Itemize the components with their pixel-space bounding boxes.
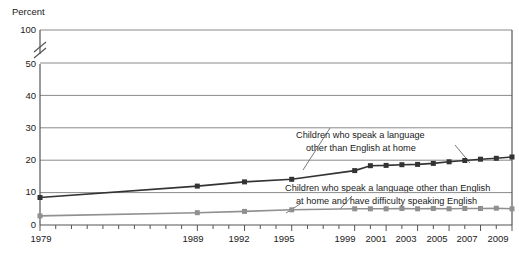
series-difficulty-english	[38, 206, 515, 219]
data-point-1999	[352, 206, 357, 211]
data-point-1979	[38, 213, 43, 218]
data-point-1989	[195, 210, 200, 215]
series-all-non-english	[38, 155, 515, 201]
data-point-2003	[415, 206, 420, 211]
data-point-2003	[415, 162, 420, 167]
data-point-1992	[242, 179, 247, 184]
series-line	[40, 208, 512, 216]
data-point-2006	[462, 158, 467, 163]
data-point-2000	[368, 206, 373, 211]
data-point-2002	[399, 206, 404, 211]
data-point-2008	[494, 206, 499, 211]
data-point-2008	[494, 156, 499, 161]
data-point-2006	[462, 206, 467, 211]
data-point-1989	[195, 184, 200, 189]
data-point-1999	[352, 168, 357, 173]
leader-top-left	[303, 128, 330, 170]
data-point-2007	[478, 206, 483, 211]
data-point-1995	[289, 177, 294, 182]
line-chart: Percent 100 50 40 30 20 10 0 1979 1989 1…	[0, 0, 519, 253]
data-point-2009	[510, 206, 515, 211]
leader-bottom-right	[340, 196, 352, 209]
data-point-2001	[384, 163, 389, 168]
data-point-2004	[431, 161, 436, 166]
data-point-2005	[447, 206, 452, 211]
data-point-2004	[431, 206, 436, 211]
series-line	[40, 157, 512, 198]
data-point-2001	[384, 206, 389, 211]
data-point-1992	[242, 209, 247, 214]
data-point-2009	[510, 155, 515, 160]
data-point-2000	[368, 163, 373, 168]
data-point-2005	[447, 159, 452, 164]
data-point-2007	[478, 157, 483, 162]
data-point-2002	[399, 162, 404, 167]
data-point-1995	[289, 207, 294, 212]
data-point-1979	[38, 195, 43, 200]
plot-surface	[0, 0, 519, 253]
